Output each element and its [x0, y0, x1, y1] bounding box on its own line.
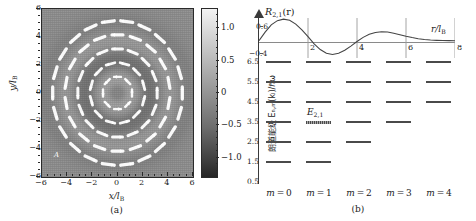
colorbar-tick-minor	[216, 21, 218, 22]
field-arrow	[64, 77, 68, 88]
panel-a-ytick-minor	[38, 106, 40, 107]
panel-a-ytick-minor	[38, 127, 40, 128]
field-arrow	[94, 146, 104, 150]
energy-tick-label: 6.5	[238, 57, 262, 66]
field-arrow	[54, 108, 58, 120]
panel-a-xlabel-main: x/l	[109, 191, 120, 201]
panel-a-ytick-minor	[38, 43, 40, 44]
colorbar-tick	[216, 60, 219, 61]
vector-field-heatmap: AA	[41, 8, 194, 178]
field-arrow	[95, 111, 101, 117]
energy-level	[426, 101, 451, 103]
panel-a-ytick-label: 0	[0, 87, 47, 96]
energy-level	[306, 141, 331, 143]
energy-level	[386, 61, 411, 63]
panel-a-xtick-label: −4	[56, 178, 76, 187]
energy-tick-label: 3.5	[238, 117, 262, 126]
field-arrow	[133, 69, 139, 75]
energy-level	[266, 61, 291, 63]
panel-a-xtick-minor	[54, 174, 55, 176]
energy-level-highlighted	[306, 121, 331, 124]
panel-a-ytick-minor	[38, 71, 40, 72]
field-arrow	[89, 81, 92, 90]
panel-a-ytick-label: −4	[0, 143, 47, 152]
field-arrow	[106, 121, 115, 124]
field-arrow	[102, 20, 114, 24]
field-arrow	[142, 58, 149, 65]
panel-a-ytick-minor	[38, 99, 40, 100]
panel-a-xtick-minor	[85, 174, 86, 176]
panel-a-xtick-minor	[179, 174, 180, 176]
panel-a-ytick-minor	[38, 50, 40, 51]
field-arrow	[147, 45, 155, 52]
panel-b: 朗道能级 Eₙ,ₘ(kₗ)/ℏω R2,1(r) r/lB 0.6 −0.4 2…	[238, 0, 476, 221]
field-arrow	[121, 162, 133, 166]
panel-a-ytick-label: −2	[0, 115, 47, 124]
field-arrow	[142, 96, 145, 105]
colorbar-tick-label: 0	[221, 87, 226, 97]
panel-a-xtick-label: −6	[31, 178, 51, 187]
field-arrow	[155, 88, 159, 98]
panel-a-xtick	[41, 172, 42, 176]
m-column-label: m = 4	[421, 188, 457, 198]
energy-level	[266, 121, 291, 123]
field-arrow	[120, 120, 129, 123]
inset-xtick-label: 8	[457, 43, 462, 52]
field-arrow	[70, 117, 76, 127]
field-arrow	[69, 59, 75, 69]
field-arrow	[80, 134, 88, 141]
panel-a-ylabel: y/lB	[8, 63, 19, 103]
colorbar-tick-label: 0.5	[221, 55, 235, 65]
panel-a-xtick-minor	[154, 174, 155, 176]
panel-a-ylabel-sub: B	[11, 76, 18, 81]
panel-a-xtick-label: 6	[182, 178, 202, 187]
panel-a-ytick-minor	[38, 22, 40, 23]
energy-level	[306, 81, 331, 83]
colorbar-tick-minor	[216, 73, 218, 74]
energy-level	[346, 141, 371, 143]
panel-a-xtick-minor	[173, 174, 174, 176]
field-arrow	[155, 35, 164, 43]
field-arrow	[152, 72, 156, 81]
panel-a-inline-label: A	[54, 151, 59, 159]
field-arrow	[178, 108, 182, 120]
field-arrow	[95, 69, 101, 75]
inset-xtick-label: 4	[359, 43, 364, 52]
field-arrow	[102, 163, 114, 167]
energy-level	[266, 161, 291, 163]
panel-a-ytick-minor	[38, 134, 40, 135]
panel-a-ytick-minor	[38, 141, 40, 142]
field-arrow	[128, 131, 137, 135]
colorbar-tick-minor	[216, 14, 218, 15]
field-arrow	[71, 35, 80, 43]
field-arrow	[125, 79, 130, 84]
colorbar-tick-minor	[216, 105, 218, 106]
m-column-label: m = 2	[341, 188, 377, 198]
field-arrow	[147, 134, 155, 141]
panel-a-xtick-minor	[129, 174, 130, 176]
panel-a-ytick-minor	[38, 162, 40, 163]
energy-level	[386, 101, 411, 103]
field-arrow	[112, 149, 123, 153]
field-arrow	[71, 144, 80, 152]
energy-level	[266, 141, 291, 143]
field-arrow	[86, 58, 93, 65]
panel-a-ytick-minor	[38, 169, 40, 170]
panel-a-xlabel-sub: B	[120, 195, 125, 202]
panel-a-xtick-minor	[79, 174, 80, 176]
colorbar-tick-minor	[216, 131, 218, 132]
m-column-label: m = 0	[261, 188, 297, 198]
panel-a-ytick-minor	[38, 78, 40, 79]
energy-level	[266, 81, 291, 83]
energy-level	[346, 61, 371, 63]
colorbar-tick-minor	[216, 163, 218, 164]
field-arrow	[169, 49, 175, 59]
field-arrow	[114, 75, 121, 79]
panel-a-xtick	[91, 172, 92, 176]
field-arrow	[142, 121, 149, 128]
field-arrow	[78, 72, 82, 81]
panel-a-xtick-label: 0	[107, 178, 127, 187]
energy-level	[426, 81, 451, 83]
field-arrow	[130, 90, 134, 97]
field-arrow	[133, 111, 139, 117]
